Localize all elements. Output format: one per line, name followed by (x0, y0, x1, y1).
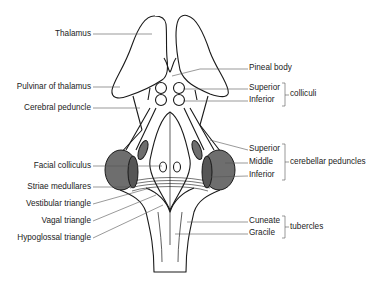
label-cuneate-tubercle: Cuneate (249, 216, 280, 226)
label-vestibular-triangle: Vestibular triangle (26, 199, 91, 209)
label-facial-colliculus: Facial colliculus (34, 161, 91, 171)
label-inferior-colliculus: Inferior (249, 95, 274, 105)
label-cerebellar-peduncles-group: cerebellar peduncles (290, 157, 366, 167)
superior-cerebellar-peduncle-left (136, 139, 150, 161)
label-vagal-triangle: Vagal triangle (42, 216, 91, 226)
label-superior-cerebellar-peduncle: Superior (249, 144, 280, 154)
inferior-colliculus-right (174, 95, 185, 106)
label-striae-medullares: Striae medullares (27, 182, 91, 192)
brainstem-diagram (0, 0, 384, 289)
superior-colliculus-left (156, 83, 167, 94)
label-pineal-body: Pineal body (249, 63, 292, 73)
superior-colliculus-right (174, 83, 185, 94)
label-middle-cerebellar-peduncle: Middle (249, 157, 273, 167)
label-colliculi-group: colliculi (290, 89, 316, 99)
left-thalamus (112, 16, 168, 98)
label-pulvinar-of-thalamus: Pulvinar of thalamus (17, 82, 91, 92)
label-inferior-cerebellar-peduncle: Inferior (249, 170, 274, 180)
superior-cerebellar-peduncle-right (190, 139, 204, 161)
inferior-colliculus-left (156, 95, 167, 106)
label-hypoglossal-triangle: Hypoglossal triangle (17, 233, 91, 243)
label-cerebral-peduncle: Cerebral peduncle (24, 103, 91, 113)
label-tubercles-group: tubercles (290, 222, 323, 232)
label-thalamus: Thalamus (55, 29, 91, 39)
label-gracile-tubercle: Gracile (249, 228, 275, 238)
label-superior-colliculus: Superior (249, 83, 280, 93)
